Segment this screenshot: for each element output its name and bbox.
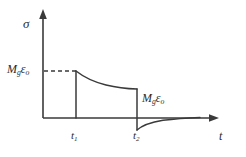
upper-stress-level-label: Mgεo (7, 63, 29, 75)
lower-strain-symbol: ε (156, 91, 161, 105)
figure-background (0, 0, 246, 157)
upper-strain-subscript: o (26, 68, 30, 77)
lower-strain-subscript: o (161, 97, 165, 106)
lower-stress-level-label: Mgεo (142, 92, 164, 104)
lower-modulus-symbol: M (142, 91, 152, 105)
upper-strain-symbol: ε (21, 62, 26, 76)
tick-label-t2: t2 (133, 130, 140, 141)
upper-modulus-symbol: M (7, 62, 17, 76)
t-axis-label: t (219, 130, 222, 142)
tick-label-t2-subscript: 2 (136, 135, 140, 143)
tick-label-t1: t1 (71, 130, 78, 141)
stress-relaxation-figure (0, 0, 246, 157)
sigma-axis-label: σ (23, 17, 29, 30)
lower-modulus-subscript: g (152, 97, 156, 106)
upper-modulus-subscript: g (17, 68, 21, 77)
tick-label-t1-subscript: 1 (74, 135, 78, 143)
